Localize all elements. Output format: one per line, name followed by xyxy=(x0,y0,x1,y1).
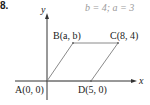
y-axis-arrow-icon xyxy=(45,13,49,19)
point-a xyxy=(46,80,48,82)
label-point-a: A(0, 0) xyxy=(15,84,44,95)
point-d xyxy=(90,80,92,82)
x-axis-arrow-icon xyxy=(131,79,137,83)
parallelogram-abcd xyxy=(47,43,118,81)
y-axis-label: y xyxy=(41,4,45,15)
point-c xyxy=(117,42,119,44)
label-point-b: B(a, b) xyxy=(53,30,81,41)
label-point-c: C(8, 4) xyxy=(110,30,138,41)
point-b xyxy=(72,42,74,44)
x-axis-label: x xyxy=(139,75,143,86)
label-point-d: D(5, 0) xyxy=(78,84,107,95)
